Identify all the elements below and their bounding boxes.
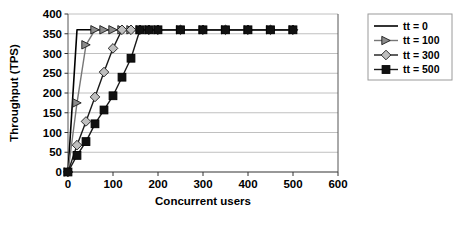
- marker-1-3: [91, 26, 99, 34]
- marker-3-7-shape: [127, 54, 135, 62]
- marker-3-3-shape: [91, 120, 99, 128]
- marker-3-9-shape: [145, 26, 153, 34]
- y-tick-label-300: 300: [43, 48, 62, 60]
- marker-1-4: [100, 26, 108, 34]
- y-tick-label-400: 400: [43, 8, 62, 20]
- x-tick-label-300: 300: [193, 178, 212, 190]
- marker-2-4-shape: [99, 67, 109, 77]
- x-axis-title: Concurrent users: [155, 195, 251, 207]
- marker-2-1: [72, 140, 82, 150]
- marker-2-3-shape: [90, 92, 100, 102]
- marker-2-2-shape: [81, 117, 91, 127]
- marker-1-5-shape: [109, 26, 117, 34]
- marker-3-10-shape: [154, 26, 162, 34]
- marker-3-16: [289, 26, 297, 34]
- marker-1-5: [109, 26, 117, 34]
- legend-marker-3: [382, 66, 390, 74]
- x-axis: 0100200300400500600: [65, 172, 348, 190]
- marker-2-3: [90, 92, 100, 102]
- legend-marker-3-shape: [382, 66, 390, 74]
- throughput-line-chart: 0501001502002503003504000100200300400500…: [0, 0, 458, 239]
- marker-1-3-shape: [91, 26, 99, 34]
- series-tt100: [64, 26, 297, 177]
- y-axis: 050100150200250300350400: [43, 8, 68, 178]
- series-line-3: [68, 30, 293, 172]
- marker-3-14: [244, 26, 252, 34]
- marker-3-6-shape: [118, 73, 126, 81]
- marker-3-6: [118, 73, 126, 81]
- marker-2-1-shape: [72, 140, 82, 150]
- marker-2-2: [81, 117, 91, 127]
- y-tick-label-350: 350: [43, 28, 62, 40]
- legend-label-1: tt = 100: [403, 34, 440, 46]
- x-tick-label-200: 200: [148, 178, 167, 190]
- x-tick-label-100: 100: [103, 178, 122, 190]
- marker-3-11-shape: [177, 26, 185, 34]
- marker-3-1-shape: [73, 152, 81, 160]
- marker-3-5: [109, 92, 117, 100]
- series-tt300: [63, 25, 298, 177]
- marker-3-13: [222, 26, 230, 34]
- series-layer: [63, 25, 298, 177]
- marker-3-16-shape: [289, 26, 297, 34]
- y-tick-label-250: 250: [43, 67, 62, 79]
- y-tick-label-0: 0: [56, 166, 62, 178]
- series-line-0: [68, 30, 293, 172]
- y-tick-label-50: 50: [49, 146, 62, 158]
- marker-3-12-shape: [199, 26, 207, 34]
- legend-label-3: tt = 500: [403, 63, 440, 75]
- marker-3-0-shape: [64, 168, 72, 176]
- legend-label-0: tt = 0: [403, 20, 428, 32]
- marker-3-12: [199, 26, 207, 34]
- marker-3-0: [64, 168, 72, 176]
- legend-label-2: tt = 300: [403, 49, 440, 61]
- marker-3-8: [136, 26, 144, 34]
- y-tick-label-100: 100: [43, 127, 62, 139]
- legend: tt = 0tt = 100tt = 300tt = 500: [368, 14, 452, 80]
- marker-3-15-shape: [267, 26, 275, 34]
- marker-2-4: [99, 67, 109, 77]
- marker-3-15: [267, 26, 275, 34]
- marker-3-8-shape: [136, 26, 144, 34]
- marker-3-2: [82, 138, 90, 146]
- marker-3-7: [127, 54, 135, 62]
- throughput-chart-figure: 0501001502002503003504000100200300400500…: [0, 0, 458, 239]
- y-tick-label-150: 150: [43, 107, 62, 119]
- x-tick-label-500: 500: [283, 178, 302, 190]
- x-tick-label-600: 600: [328, 178, 347, 190]
- x-tick-label-400: 400: [238, 178, 257, 190]
- series-line-2: [68, 30, 293, 172]
- marker-3-3: [91, 120, 99, 128]
- marker-1-4-shape: [100, 26, 108, 34]
- marker-3-14-shape: [244, 26, 252, 34]
- marker-3-13-shape: [222, 26, 230, 34]
- marker-2-5-shape: [108, 44, 118, 54]
- marker-3-2-shape: [82, 138, 90, 146]
- series-tt0: [68, 30, 293, 172]
- marker-3-11: [177, 26, 185, 34]
- marker-3-4-shape: [100, 106, 108, 114]
- y-axis-title: Throughput (TPS): [8, 44, 20, 142]
- marker-2-5: [108, 44, 118, 54]
- marker-3-10: [154, 26, 162, 34]
- series-tt500: [64, 26, 297, 176]
- marker-3-4: [100, 106, 108, 114]
- marker-3-5-shape: [109, 92, 117, 100]
- y-tick-label-200: 200: [43, 87, 62, 99]
- x-tick-label-0: 0: [65, 178, 71, 190]
- marker-3-1: [73, 152, 81, 160]
- marker-3-9: [145, 26, 153, 34]
- series-line-1: [68, 30, 293, 172]
